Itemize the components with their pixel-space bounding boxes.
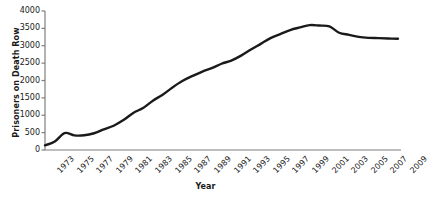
axis-lines [42,11,402,150]
data-series-line [45,25,398,145]
x-tick-label: 2009 [409,155,429,175]
